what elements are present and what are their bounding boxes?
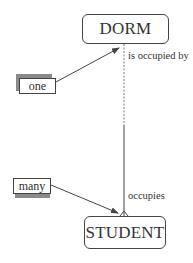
callout-label-one: one: [19, 78, 56, 94]
relationship-label-occupies: occupies: [128, 190, 165, 201]
relationship-label-is-occupied-by: is occupied by: [128, 50, 189, 61]
many-arrow: [51, 185, 118, 213]
cardinality-callout-one: one: [14, 74, 58, 96]
entity-student: STUDENT: [84, 216, 166, 249]
callout-label-many: many: [13, 178, 51, 194]
er-diagram: DORM STUDENT is occupied by occupies one…: [0, 0, 193, 263]
cardinality-callout-many: many: [12, 176, 56, 200]
one-arrow: [56, 48, 119, 82]
entity-dorm: DORM: [82, 14, 169, 44]
